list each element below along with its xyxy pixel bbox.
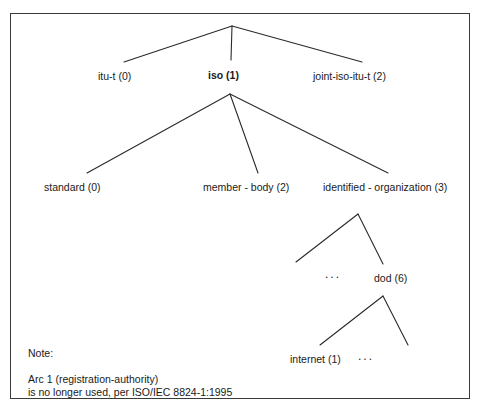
note-title: Note:: [28, 347, 232, 360]
node-internet[interactable]: internet (1): [290, 353, 341, 365]
node-dod[interactable]: dod (6): [374, 272, 407, 284]
node-standard[interactable]: standard (0): [44, 181, 101, 193]
ellipsis-internet-right: ...: [358, 350, 374, 362]
note-line-2: is no longer used, per ISO/IEC 8824-1:19…: [28, 386, 232, 399]
node-member-body[interactable]: member - body (2): [203, 181, 289, 193]
diagram-frame: [10, 13, 470, 399]
node-identified-organization[interactable]: identified - organization (3): [323, 181, 447, 193]
node-itu-t[interactable]: itu-t (0): [98, 70, 131, 82]
note-line-1: Arc 1 (registration-authority): [28, 373, 232, 386]
node-joint-iso-itu-t[interactable]: joint-iso-itu-t (2): [313, 70, 386, 82]
note-block: Note: Arc 1 (registration-authority) is …: [28, 347, 232, 399]
diagram-page: itu-t (0) iso (1) joint-iso-itu-t (2) st…: [0, 0, 478, 416]
ellipsis-dod-left: ...: [325, 268, 341, 280]
node-iso[interactable]: iso (1): [208, 69, 239, 81]
